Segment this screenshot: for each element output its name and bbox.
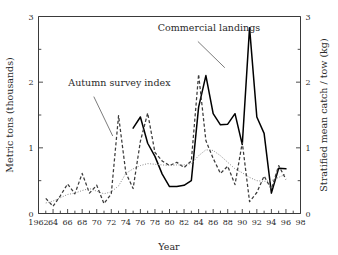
y2-axis-tick-labels: 0123 bbox=[306, 13, 311, 219]
series-line bbox=[46, 74, 286, 206]
x-tick-label: 64 bbox=[48, 218, 58, 227]
data-series bbox=[46, 28, 286, 207]
y2-tick-label: 1 bbox=[306, 144, 311, 153]
x-tick-label: 88 bbox=[223, 218, 233, 227]
y2-tick-label: 2 bbox=[306, 78, 311, 87]
x-tick-label: 96 bbox=[281, 218, 291, 227]
x-axis-tick-labels: 1962646668707274767880828486889092949698 bbox=[28, 218, 305, 227]
y2-tick-label: 3 bbox=[306, 13, 311, 22]
y-tick-label: 1 bbox=[28, 144, 33, 153]
chart-svg: 1962646668707274767880828486889092949698… bbox=[0, 0, 338, 255]
x-tick-label: 82 bbox=[179, 218, 189, 227]
x-tick-label: 68 bbox=[77, 218, 87, 227]
x-axis-label: Year bbox=[157, 241, 180, 252]
y2-tick-label: 0 bbox=[306, 210, 311, 219]
chart-figure: 1962646668707274767880828486889092949698… bbox=[0, 0, 338, 255]
series-line bbox=[46, 150, 286, 203]
annotation-label: Autumn survey index bbox=[67, 77, 171, 88]
y-axis-ticks bbox=[39, 17, 44, 214]
annotation-label: Commercial landings bbox=[158, 22, 260, 33]
y-tick-label: 3 bbox=[28, 13, 33, 22]
y-tick-label: 0 bbox=[28, 210, 33, 219]
x-tick-label: 94 bbox=[266, 218, 276, 227]
y-tick-label: 2 bbox=[28, 78, 33, 87]
x-axis-ticks bbox=[39, 209, 301, 214]
y2-axis-label: Stratified mean catch / tow (kg) bbox=[318, 38, 329, 191]
x-tick-label: 74 bbox=[121, 218, 131, 227]
x-tick-label: 98 bbox=[295, 218, 305, 227]
y2-axis-ticks bbox=[296, 17, 301, 214]
x-tick-label: 80 bbox=[164, 218, 174, 227]
x-tick-label: 70 bbox=[92, 218, 102, 227]
y-axis-label: Metric tons (thousands) bbox=[4, 57, 15, 172]
x-tick-label: 86 bbox=[208, 218, 218, 227]
x-tick-label: 66 bbox=[63, 218, 73, 227]
x-tick-label: 90 bbox=[237, 218, 247, 227]
x-tick-label: 72 bbox=[106, 218, 116, 227]
x-tick-label: 1962 bbox=[28, 218, 48, 227]
y-axis-tick-labels: 0123 bbox=[28, 13, 33, 219]
x-tick-label: 92 bbox=[252, 218, 262, 227]
annotation-leader-line bbox=[198, 41, 225, 67]
annotation-leader-line bbox=[94, 97, 113, 136]
x-tick-label: 84 bbox=[194, 218, 204, 227]
x-tick-label: 76 bbox=[135, 218, 145, 227]
x-tick-label: 78 bbox=[150, 218, 160, 227]
